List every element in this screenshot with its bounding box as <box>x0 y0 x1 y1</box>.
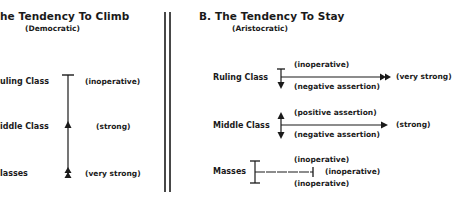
panel-b-row-ruling-above: (inoperative) <box>294 60 349 69</box>
panel-b-row-middle-above: (positive assertion) <box>294 108 377 117</box>
panel-a-row-ruling-label: uling Class <box>0 77 49 86</box>
panel-a-row-middle-label: iddle Class <box>0 122 49 131</box>
panel-a-vertical-axis <box>62 75 74 178</box>
arrowhead-right-icon <box>381 122 388 129</box>
panel-separator <box>165 12 170 192</box>
panel-a-row-masses-note: (very strong) <box>85 169 141 178</box>
panel-b-row-middle-right: (strong) <box>396 120 430 129</box>
panel-b-row-ruling-below: (negative assertion) <box>294 82 380 91</box>
panel-a-row-ruling-note: (inoperative) <box>85 77 140 86</box>
arrowhead-up-icon <box>278 112 285 119</box>
panel-b-row-middle-below: (negative assertion) <box>294 130 380 139</box>
panel-b-row-masses-label: Masses <box>213 167 246 176</box>
panel-b-title: B. The Tendency To Stay <box>199 10 344 22</box>
panel-a-row-masses-label: lasses <box>0 169 28 178</box>
arrowhead-up-icon <box>65 121 72 128</box>
panel-b-subtitle: (Aristocratic) <box>232 24 288 33</box>
panel-b-row-ruling-right: (very strong) <box>396 72 452 81</box>
panel-b-row-masses-right: (inoperative) <box>325 167 380 176</box>
panel-a-subtitle: (Democratic) <box>25 24 80 33</box>
panel-b-row-masses-below: (inoperative) <box>294 179 349 188</box>
panel-a-row-middle-note: (strong) <box>96 122 130 131</box>
panel-a-title: he Tendency To Climb <box>0 10 129 22</box>
arrowhead-down-icon <box>278 82 285 89</box>
panel-b-row-middle-label: Middle Class <box>213 121 270 130</box>
panel-b-row-ruling-label: Ruling Class <box>213 73 268 82</box>
arrowhead-down-icon <box>278 132 285 139</box>
panel-b-row-masses-above: (inoperative) <box>294 155 349 164</box>
